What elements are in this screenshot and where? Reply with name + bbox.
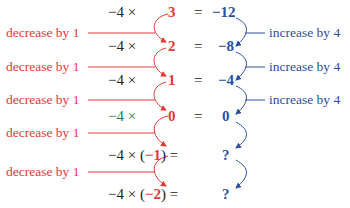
equals: = [194,38,202,55]
factor: −2 [145,186,161,202]
factor: 0 [168,108,176,125]
decrease-label: decrease by 1 [6,59,79,75]
equals: = [170,186,178,202]
factor: 3 [168,4,176,21]
decrease-label: decrease by 1 [6,125,79,141]
equals: = [170,147,178,163]
lhs: −4 × [108,108,136,125]
result: −4 [218,72,234,89]
decrease-label: decrease by 1 [6,164,79,180]
result: 0 [222,108,230,125]
decrease-label: decrease by 1 [6,25,79,41]
equals: = [194,4,202,21]
result: −8 [218,38,234,55]
equation-row: −4 × (−1) = [108,147,178,164]
lhs: −4 × [108,186,136,202]
lhs: −4 × [108,4,136,20]
paren-close: ) [161,147,166,163]
factor: 2 [168,38,176,55]
equation-row: −4 × (−2) = [108,186,178,203]
lhs: −4 × [108,147,136,163]
increase-label: increase by 4 [269,92,340,108]
decrease-label: decrease by 1 [6,92,79,108]
factor: 1 [168,72,176,89]
equals: = [194,108,202,125]
equation-row: −4 × [108,4,136,21]
equals: = [194,72,202,89]
factor: −1 [145,147,161,163]
result: −12 [212,4,236,21]
result: ? [222,186,230,203]
lhs: −4 × [108,38,136,55]
result: ? [222,147,230,164]
paren-close: ) [161,186,166,202]
increase-label: increase by 4 [269,59,340,75]
lhs: −4 × [108,72,136,89]
increase-label: increase by 4 [269,25,340,41]
